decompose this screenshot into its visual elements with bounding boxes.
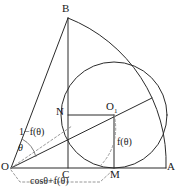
length-label-radius-f: f(θ) [117,137,132,147]
point-label-o1: O1 [106,101,117,115]
geometry-figure: O A B C M N O1 θ 1−f(θ) f(θ) cosθ+f(θ) [0,0,177,191]
length-label-base: cosθ+f(θ) [30,176,69,186]
point-label-a: A [167,161,175,172]
point-label-o1-subscript: 1 [114,107,118,115]
angle-arc-theta [22,139,36,157]
figure-canvas [0,0,177,191]
angle-label-theta: θ [18,143,23,153]
point-label-o: O [1,161,9,172]
point-label-b: B [62,3,69,14]
solid-strokes [11,18,167,168]
point-label-m: M [110,169,120,180]
point-label-n: N [56,106,64,117]
length-label-one-minus-f: 1−f(θ) [19,127,44,137]
point-label-o1-letter: O [106,100,114,112]
